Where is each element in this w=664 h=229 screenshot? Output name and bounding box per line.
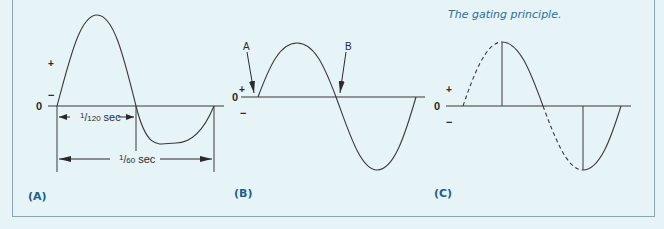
- panel-c: + 0 − (C): [434, 42, 631, 200]
- panel-a: 1/120sec 1/60sec + 0 − (A): [28, 15, 224, 203]
- minus-sign: −: [446, 116, 452, 128]
- plus-sign: +: [239, 84, 245, 95]
- panel-c-tag: (C): [434, 187, 452, 200]
- marker-a-arrow: [247, 52, 254, 93]
- panel-a-tag: (A): [28, 190, 47, 203]
- full-period-label: 1/60sec: [119, 153, 156, 165]
- marker-a-label: A: [243, 41, 250, 52]
- marker-b-label: B: [345, 41, 352, 52]
- zero-label: 0: [232, 91, 238, 103]
- blocked-positive-portion: [463, 42, 502, 106]
- sine-wave: [258, 43, 416, 170]
- minus-sign: −: [240, 107, 246, 119]
- conducted-positive-portion: [502, 42, 543, 106]
- conducted-negative-portion: [583, 106, 621, 170]
- half-period-label: 1/120sec: [80, 111, 121, 123]
- minus-sign: −: [48, 89, 54, 101]
- plus-sign: +: [446, 84, 452, 95]
- panel-b-tag: (B): [234, 187, 252, 200]
- panel-b: A B + 0 − (B): [232, 41, 425, 200]
- zero-label: 0: [434, 100, 440, 112]
- gating-diagram: 1/120sec 1/60sec + 0 − (A) A B + 0 − (B): [0, 0, 664, 229]
- plus-sign: +: [48, 58, 54, 69]
- marker-b-arrow: [340, 52, 346, 93]
- blocked-negative-portion: [543, 106, 583, 170]
- zero-label: 0: [36, 100, 42, 112]
